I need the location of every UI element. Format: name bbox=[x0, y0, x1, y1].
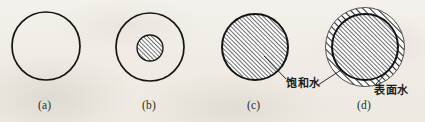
panel-a-outer-circle bbox=[12, 12, 80, 80]
panel-c-aggregate bbox=[222, 14, 288, 80]
saturated-water-label: 饱和水 bbox=[286, 74, 321, 90]
panel-b-aggregate bbox=[116, 13, 184, 81]
panel-d-aggregate bbox=[318, 8, 405, 87]
caption-panel-d: (d) bbox=[357, 99, 371, 111]
surface-water-label: 表面水 bbox=[374, 81, 409, 97]
caption-panel-a: (a) bbox=[38, 99, 51, 111]
caption-panel-b: (b) bbox=[142, 99, 156, 111]
saturated-water-leader-line-panel-d bbox=[318, 70, 341, 85]
panel-a-aggregate bbox=[12, 12, 80, 80]
caption-panel-c: (c) bbox=[247, 99, 260, 111]
figure-container: 饱和水 表面水 (a) (b) (c) (d) bbox=[0, 0, 425, 122]
panel-b-inner-hatched-core bbox=[137, 35, 163, 61]
panel-d-hatched-circle bbox=[332, 14, 398, 80]
